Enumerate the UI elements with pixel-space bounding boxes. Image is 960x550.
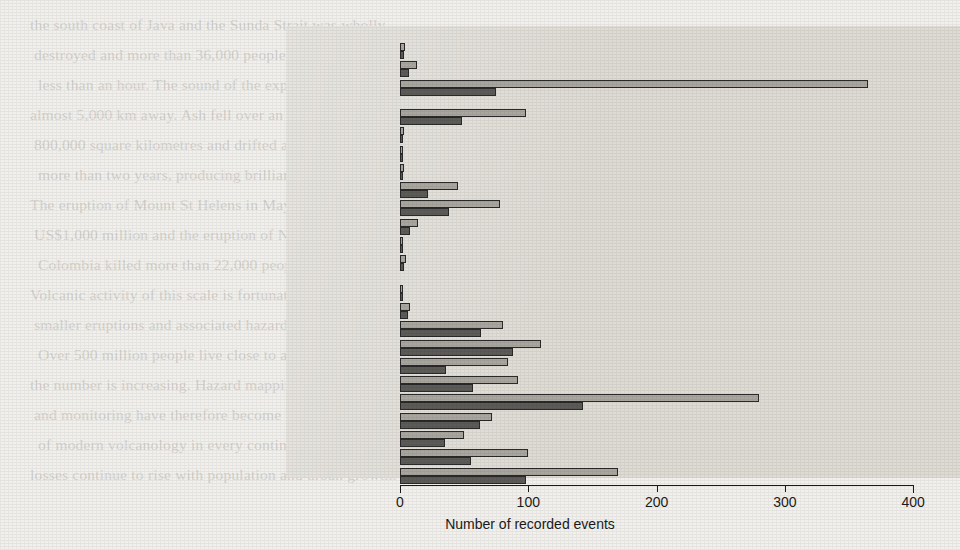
bar-upper <box>400 394 759 402</box>
bar-lower <box>400 245 403 253</box>
bar-upper <box>400 255 406 263</box>
bar-lower <box>400 476 526 484</box>
bar-upper <box>400 80 868 88</box>
bar-lower <box>400 439 445 447</box>
bar-lower <box>400 402 583 410</box>
x-axis-tick <box>913 485 914 493</box>
x-axis-tick-label: 400 <box>902 494 925 510</box>
bar-upper <box>400 358 508 366</box>
bar-upper <box>400 431 464 439</box>
bar-lower <box>400 329 481 337</box>
x-axis-title: Number of recorded events <box>0 516 960 532</box>
bar-lower <box>400 348 513 356</box>
bar-lower <box>400 421 480 429</box>
bar-upper <box>400 200 500 208</box>
bar-lower <box>400 366 446 374</box>
bar-upper <box>400 43 405 51</box>
bar-lower <box>400 117 462 125</box>
bar-lower <box>400 154 403 162</box>
bar-upper <box>400 376 518 384</box>
bar-upper <box>400 340 541 348</box>
bar-upper <box>400 109 526 117</box>
bar-lower <box>400 311 408 319</box>
bar-lower <box>400 51 404 59</box>
bar-upper <box>400 219 418 227</box>
bar-upper <box>400 321 503 329</box>
x-axis-tick-label: 0 <box>396 494 404 510</box>
bar-upper <box>400 146 403 154</box>
horizontal-bar-chart: Red SeaBlack SeaMediterranean SeaIndian … <box>0 0 960 550</box>
bar-lower <box>400 190 428 198</box>
bar-lower <box>400 384 473 392</box>
bar-lower <box>400 88 496 96</box>
bar-lower <box>400 293 403 301</box>
x-axis-title-text: Number of recorded events <box>445 516 615 532</box>
x-axis-tick-label: 200 <box>645 494 668 510</box>
bar-upper <box>400 449 528 457</box>
bar-upper <box>400 182 458 190</box>
bar-upper <box>400 164 404 172</box>
bar-lower <box>400 135 403 143</box>
bar-lower <box>400 263 404 271</box>
bar-lower <box>400 172 403 180</box>
bar-upper <box>400 285 403 293</box>
bar-lower <box>400 227 410 235</box>
x-axis-tick-label: 100 <box>517 494 540 510</box>
bar-upper <box>400 468 618 476</box>
x-axis-tick <box>528 485 529 492</box>
bar-lower <box>400 208 449 216</box>
x-axis-tick <box>657 485 658 492</box>
bar-upper <box>400 413 492 421</box>
bar-upper <box>400 61 417 69</box>
x-axis-tick-label: 300 <box>773 494 796 510</box>
bar-upper <box>400 237 403 245</box>
bar-lower <box>400 69 409 77</box>
x-axis-tick <box>785 485 786 492</box>
bar-lower <box>400 457 471 465</box>
bar-upper <box>400 127 404 135</box>
bar-upper <box>400 303 410 311</box>
x-axis-tick <box>400 485 401 493</box>
